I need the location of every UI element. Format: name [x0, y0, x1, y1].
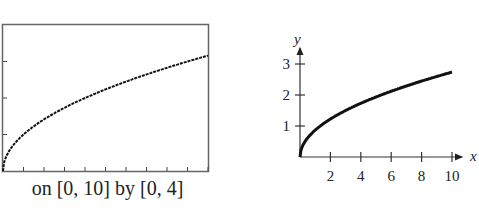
- x-tick-label: 4: [357, 168, 365, 184]
- x-tick-label: 2: [327, 168, 335, 184]
- calculator-screen-graph: on [0, 10] by [0, 4]: [0, 0, 215, 211]
- y-axis-label: y: [292, 31, 301, 47]
- y-tick-label: 1: [283, 118, 291, 134]
- math-graph: x y 246810 123: [270, 30, 479, 211]
- x-axis-label: x: [469, 148, 477, 164]
- y-tick-label: 3: [283, 56, 291, 72]
- window-caption: on [0, 10] by [0, 4]: [0, 177, 215, 200]
- math-plot: x y 246810 123: [270, 30, 479, 211]
- y-tick-label: 2: [283, 87, 291, 103]
- calculator-plot: [0, 0, 215, 178]
- x-tick-label: 6: [387, 168, 395, 184]
- x-tick-label: 10: [445, 168, 460, 184]
- x-tick-label: 8: [418, 168, 426, 184]
